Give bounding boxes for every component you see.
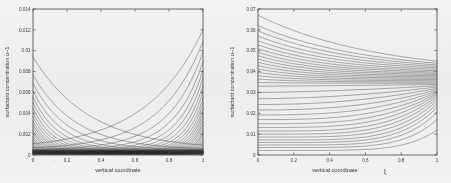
- y-tick-label: 0.002: [19, 132, 31, 137]
- x-tick-label: 1: [436, 158, 439, 163]
- curve: [258, 82, 437, 83]
- right-x-tick-labels: 00.20.40.60.81: [257, 158, 439, 163]
- y-tick-label: 0.01: [22, 48, 31, 53]
- y-tick-label: 0.04: [247, 69, 256, 74]
- x-tick-label: 0.6: [362, 158, 369, 163]
- y-tick-label: 0.05: [247, 48, 256, 53]
- y-tick-label: 0.02: [247, 111, 256, 116]
- x-tick-label: 0: [32, 158, 35, 163]
- right-y-tick-labels: 00.010.020.030.040.050.060.07: [247, 7, 256, 158]
- curve: [258, 15, 437, 61]
- curve: [33, 109, 203, 152]
- right-x-axis-symbol: ξ: [383, 167, 386, 175]
- left-curve-family: [33, 30, 203, 154]
- curve: [33, 103, 203, 151]
- x-tick-label: 0.4: [326, 158, 333, 163]
- y-tick-label: 0: [28, 153, 31, 158]
- x-tick-label: 0.4: [98, 158, 105, 163]
- curve: [33, 57, 203, 145]
- right-plot-panel: 00.20.40.60.81 00.010.020.030.040.050.06…: [225, 0, 450, 183]
- right-plot-svg: 00.20.40.60.81 00.010.020.030.040.050.06…: [225, 0, 450, 183]
- y-tick-label: 0.014: [19, 7, 31, 12]
- curve: [258, 41, 437, 68]
- left-plot-svg: 00.20.40.60.81 00.0020.0040.0060.0080.01…: [0, 0, 225, 183]
- right-curve-family: [258, 15, 437, 150]
- left-plot-panel: 00.20.40.60.81 00.0020.0040.0060.0080.01…: [0, 0, 225, 183]
- curve: [33, 75, 203, 149]
- x-tick-label: 0.6: [132, 158, 139, 163]
- curve: [258, 93, 437, 123]
- x-tick-label: 0.2: [291, 158, 298, 163]
- curve: [33, 91, 203, 150]
- x-tick-label: 0.8: [166, 158, 173, 163]
- curve: [258, 96, 437, 131]
- left-y-axis-label: surfactant concentration u−1: [4, 47, 10, 118]
- x-tick-label: 0.2: [64, 158, 71, 163]
- y-tick-label: 0.006: [19, 90, 31, 95]
- curve: [258, 26, 437, 64]
- curve: [33, 98, 203, 151]
- x-tick-label: 0: [257, 158, 260, 163]
- y-tick-label: 0.012: [19, 28, 31, 33]
- curve: [33, 70, 203, 150]
- curve: [33, 41, 203, 147]
- y-tick-label: 0.004: [19, 111, 31, 116]
- curve: [258, 90, 437, 110]
- right-y-axis-label: surfactant concentration u−1: [229, 47, 235, 118]
- right-x-axis-label: vertical coordinate: [312, 167, 357, 173]
- left-y-tick-labels: 00.0020.0040.0060.0080.010.0120.014: [19, 7, 31, 158]
- curve: [258, 62, 437, 75]
- curve: [258, 86, 437, 93]
- figure-page: 00.20.40.60.81 00.0020.0040.0060.0080.01…: [0, 0, 451, 183]
- y-tick-label: 0.008: [19, 69, 31, 74]
- y-tick-label: 0: [253, 153, 256, 158]
- left-x-tick-labels: 00.20.40.60.81: [32, 158, 205, 163]
- y-tick-label: 0.06: [247, 28, 256, 33]
- curve: [258, 85, 437, 87]
- y-tick-label: 0.01: [247, 132, 256, 137]
- y-tick-label: 0.03: [247, 90, 256, 95]
- curve: [258, 59, 437, 74]
- left-x-axis-label: vertical coordinate: [95, 167, 140, 173]
- x-tick-label: 1: [202, 158, 205, 163]
- y-tick-label: 0.07: [247, 7, 256, 12]
- x-tick-label: 0.8: [398, 158, 405, 163]
- curve: [33, 30, 203, 144]
